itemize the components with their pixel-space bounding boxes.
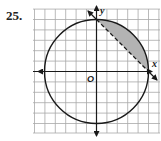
y-axis-label: y	[99, 5, 105, 16]
shaded-region	[97, 20, 149, 72]
x-axis-label: x	[151, 58, 157, 69]
line-arrow-bottom	[149, 72, 158, 81]
coordinate-graph: y x O	[0, 0, 161, 141]
line-arrow-top	[88, 11, 97, 20]
origin-label: O	[87, 74, 94, 84]
